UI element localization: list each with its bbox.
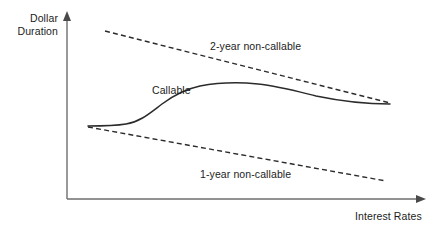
chart-plot-area: [0, 0, 445, 231]
y-axis-arrowhead: [63, 11, 71, 21]
y-axis-label-line1: Dollar: [30, 12, 58, 24]
y-axis-label: Dollar Duration: [6, 12, 58, 37]
y-axis-label-line2: Duration: [18, 25, 59, 37]
x-axis-label: Interest Rates: [355, 210, 422, 223]
annotation-2-year-non-callable: 2-year non-callable: [210, 40, 301, 53]
x-axis-arrowhead: [416, 195, 426, 203]
series-callable: [88, 83, 390, 126]
annotation-callable: Callable: [152, 84, 191, 97]
dollar-duration-chart: Dollar Duration Interest Rates 2-year no…: [0, 0, 445, 231]
annotation-1-year-non-callable: 1-year non-callable: [200, 168, 291, 181]
